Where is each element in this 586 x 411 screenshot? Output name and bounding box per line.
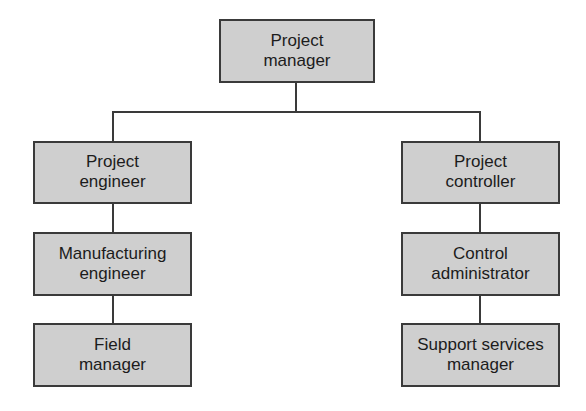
node-label-line1: Field (94, 335, 131, 355)
node-label-line2: manager (447, 355, 514, 375)
node-label-line2: controller (446, 172, 516, 192)
node-label-line2: manager (79, 355, 146, 375)
node-project-controller: Project controller (401, 141, 560, 204)
node-field-manager: Field manager (33, 323, 192, 387)
node-label-line1: Control (453, 244, 508, 264)
node-label-line2: engineer (79, 172, 145, 192)
node-project-engineer: Project engineer (33, 141, 192, 204)
node-label-line2: administrator (431, 264, 529, 284)
node-support-services-manager: Support services manager (401, 323, 560, 387)
node-control-administrator: Control administrator (401, 232, 560, 296)
node-label-line1: Project (454, 152, 507, 172)
node-label-line1: Support services (417, 335, 544, 355)
node-label-line2: engineer (79, 264, 145, 284)
node-label-line1: Project (86, 152, 139, 172)
node-manufacturing-engineer: Manufacturing engineer (33, 232, 192, 296)
node-label-line1: Project (271, 31, 324, 51)
node-project-manager: Project manager (219, 19, 375, 83)
org-chart: Project manager Project engineer Manufac… (0, 0, 586, 411)
node-label-line2: manager (263, 51, 330, 71)
node-label-line1: Manufacturing (59, 244, 167, 264)
